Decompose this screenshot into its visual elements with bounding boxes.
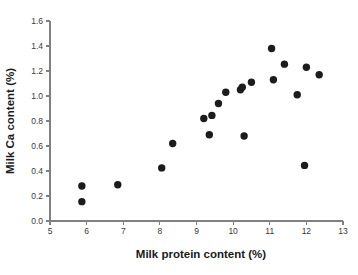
x-tick-label: 12 (302, 226, 312, 236)
scatter-point (301, 162, 308, 169)
scatter-point (78, 182, 85, 189)
data-points-group (78, 45, 323, 206)
scatter-point (270, 76, 277, 83)
y-tick-label: 1.6 (31, 16, 43, 26)
x-tick-label: 8 (158, 226, 163, 236)
y-axis-ticks: 0.00.20.40.60.81.01.21.41.6 (31, 16, 50, 226)
x-tick-label: 6 (84, 226, 89, 236)
scatter-point (208, 112, 215, 119)
scatter-point (206, 131, 213, 138)
y-tick-label: 1.0 (31, 91, 43, 101)
scatter-point (281, 60, 288, 67)
y-tick-label: 1.2 (31, 66, 43, 76)
y-tick-label: 0.6 (31, 141, 43, 151)
x-axis-ticks: 5678910111213 (48, 221, 348, 236)
scatter-point (303, 64, 310, 71)
x-tick-label: 9 (194, 226, 199, 236)
x-tick-label: 5 (48, 226, 53, 236)
scatter-point (169, 140, 176, 147)
x-tick-label: 13 (338, 226, 348, 236)
scatter-point (222, 89, 229, 96)
scatter-point (200, 115, 207, 122)
y-tick-label: 0.0 (31, 216, 43, 226)
scatter-point (294, 91, 301, 98)
x-tick-label: 7 (121, 226, 126, 236)
y-tick-label: 0.2 (31, 191, 43, 201)
scatter-point (158, 164, 165, 171)
y-tick-label: 1.4 (31, 41, 43, 51)
y-tick-label: 0.8 (31, 116, 43, 126)
x-tick-label: 10 (228, 226, 238, 236)
scatter-point (78, 198, 85, 205)
x-tick-label: 11 (265, 226, 274, 236)
figure-caption (0, 266, 358, 275)
scatter-point (239, 84, 246, 91)
y-axis-title: Milk Ca content (%) (4, 68, 16, 174)
scatter-point (315, 71, 322, 78)
y-tick-label: 0.4 (31, 166, 43, 176)
scatter-point (268, 45, 275, 52)
scatter-point (215, 100, 222, 107)
scatter-point (248, 79, 255, 86)
scatter-point (240, 132, 247, 139)
scatter-point (114, 181, 121, 188)
chart-canvas: 0.00.20.40.60.81.01.21.41.6 567891011121… (0, 0, 358, 275)
scatter-plot-figure: 0.00.20.40.60.81.01.21.41.6 567891011121… (0, 0, 358, 275)
x-axis-title: Milk protein content (%) (136, 248, 267, 260)
